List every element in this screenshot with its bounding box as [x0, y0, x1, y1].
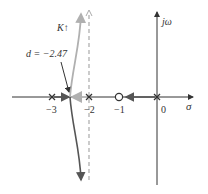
zero-minus1: [115, 93, 122, 100]
breakaway-label: d = −2.47: [26, 48, 68, 59]
tick-label-0: 0: [161, 104, 166, 115]
tick-label-minus3: −3: [46, 104, 57, 115]
breakaway-pointer: [61, 62, 69, 92]
root-locus-diagram: −3 −2 −1 0 σ jω K↑ d = −2.47: [0, 0, 208, 194]
locus-branch-lower: [70, 97, 81, 180]
gain-label: K↑: [56, 22, 69, 33]
tick-label-minus2: −2: [84, 104, 95, 115]
sigma-axis-label: σ: [186, 100, 192, 112]
locus-branch-upper: [70, 14, 81, 97]
tick-label-minus1: −1: [114, 104, 125, 115]
jomega-axis-label: jω: [160, 16, 172, 27]
